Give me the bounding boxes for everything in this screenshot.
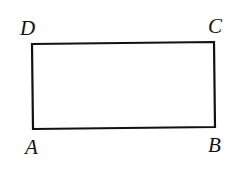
vertex-label-a: A [23,135,38,159]
rectangle-diagram: D C A B [0,0,239,172]
rectangle-abcd [32,42,215,129]
vertex-label-b: B [208,133,221,157]
vertex-label-c: C [208,14,223,38]
vertex-label-d: D [19,16,35,40]
